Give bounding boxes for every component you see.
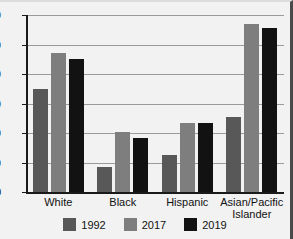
plot-area [26,15,284,194]
legend-item[interactable]: 2019 [184,218,226,231]
bar [133,138,148,192]
bar-chart: 0102030405060 WhiteBlackHispanicAsian/Pa… [0,0,293,239]
bar [226,117,241,192]
y-axis-tick-label: 10 [0,157,1,169]
legend-item[interactable]: 2017 [124,218,166,231]
y-axis-tick-label: 20 [0,127,1,139]
y-axis-tick-label: 40 [0,68,1,80]
x-axis-category-label: White [26,196,91,208]
bar [115,132,130,192]
bar [244,24,259,192]
y-axis-tick-label: 60 [0,9,1,21]
bar [51,53,66,192]
legend-label: 2019 [202,219,226,231]
y-axis-line [26,15,28,194]
legend-label: 2017 [142,219,166,231]
bar [69,59,84,192]
y-axis-tick-label: 0 [0,186,1,198]
bar [198,123,213,192]
x-axis-category-label: Asian/Pacific Islander [220,196,285,220]
gridline [26,15,284,16]
bar [180,123,195,192]
x-axis-line [26,192,284,194]
bar [262,28,277,192]
bar [33,89,48,192]
x-axis-category-label: Black [91,196,156,208]
y-axis-tick-label: 30 [0,98,1,110]
bar [97,167,112,192]
legend-swatch-icon [184,218,197,231]
legend-swatch-icon [124,218,137,231]
legend: 199220172019 [0,218,290,231]
legend-item[interactable]: 1992 [63,218,105,231]
legend-label: 1992 [81,219,105,231]
legend-swatch-icon [63,218,76,231]
bar [162,155,177,192]
x-axis-category-label: Hispanic [155,196,220,208]
y-axis-tick-label: 50 [0,39,1,51]
